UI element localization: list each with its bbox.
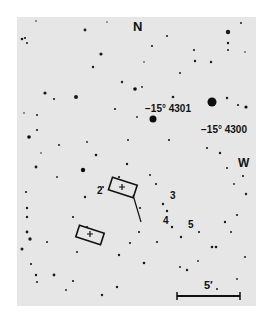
star-label-4301: −15° 4301 bbox=[145, 104, 191, 114]
field-marker-5: 5 bbox=[188, 220, 194, 230]
compass-north-label: N bbox=[133, 20, 142, 33]
background-stars bbox=[21, 20, 248, 296]
crosshair-lower bbox=[87, 231, 93, 237]
crosshair-upper bbox=[119, 184, 125, 190]
star-field-graphic bbox=[17, 17, 256, 306]
field-marker-4: 4 bbox=[163, 216, 169, 226]
field-marker-3: 3 bbox=[170, 191, 176, 201]
field-marker-2: 2 bbox=[97, 186, 103, 196]
star-label-4300: −15° 4300 bbox=[201, 125, 247, 135]
star-field-plate: N W −15° 4301 −15° 4300 2 3 4 5 5′ bbox=[17, 17, 256, 306]
star-bd-15-4301 bbox=[150, 116, 157, 123]
scale-bar-label: 5′ bbox=[204, 280, 213, 291]
compass-west-label: W bbox=[238, 157, 249, 169]
star-bd-15-4300 bbox=[208, 98, 217, 107]
